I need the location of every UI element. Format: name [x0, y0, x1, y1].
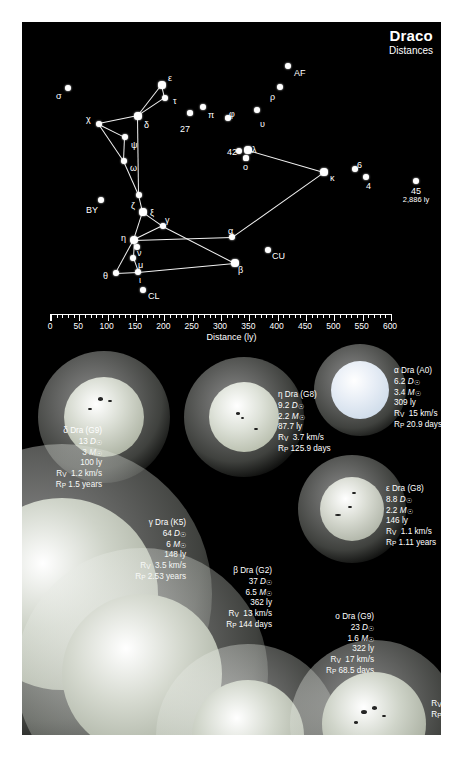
star-point	[98, 197, 104, 203]
scale-minor-tick	[238, 315, 239, 318]
scale-tick-label: 400	[270, 321, 284, 331]
page-subtitle: Distances	[389, 45, 433, 56]
star-label: δ	[144, 121, 149, 130]
star-diameter: 6.2 D☉	[394, 377, 441, 388]
map-title-group: Draco Distances	[389, 27, 433, 56]
star-point	[243, 155, 248, 160]
scale-minor-tick	[374, 315, 375, 318]
star-point	[134, 112, 141, 119]
scale-minor-tick	[142, 315, 143, 318]
star-point	[187, 110, 193, 116]
scale-minor-tick	[210, 315, 211, 318]
star-data-alpha: α Dra (A0)6.2 D☉3.4 M☉309 lyRV 15 km/sRP…	[394, 366, 441, 431]
star-rotation-period: RP 20.9 days	[394, 420, 441, 431]
star-rotation-period: RP 244 days	[431, 710, 441, 721]
star-diameter: 64 D☉	[135, 529, 186, 540]
star-point	[139, 208, 146, 215]
star-mass: 2.2 M☉	[386, 506, 436, 517]
starspot	[354, 721, 359, 724]
star-label: 42	[227, 148, 237, 157]
star-mass: 3.4 M☉	[394, 388, 441, 399]
star-name: β Dra (G2)	[226, 566, 272, 577]
starspot	[254, 428, 258, 430]
page-title: Draco	[389, 27, 433, 44]
scale-minor-tick	[261, 315, 262, 318]
star-point	[200, 104, 206, 110]
star-name: ο Dra (G9)	[326, 612, 374, 623]
scale-tick-label: 300	[213, 321, 227, 331]
scale-minor-tick	[170, 315, 171, 318]
star-size-comparison: α Dra (A0)6.2 D☉3.4 M☉309 lyRV 15 km/sRP…	[22, 344, 441, 735]
starspot	[236, 412, 241, 415]
scale-tick-label: 450	[298, 321, 312, 331]
scale-tick-label: 550	[355, 321, 369, 331]
scale-minor-tick	[215, 315, 216, 318]
star-mass: 2.2 M☉	[278, 412, 331, 423]
star-label: π	[208, 111, 214, 120]
star-point	[162, 95, 168, 101]
star-sphere-eta	[209, 382, 279, 452]
star-point	[65, 85, 71, 91]
star-point	[158, 81, 165, 88]
star-point	[130, 236, 138, 244]
star-diameter: 37 D☉	[226, 577, 272, 588]
star-label: ζ	[131, 202, 135, 211]
far-star-distance: 2,886 ly	[386, 196, 446, 204]
scale-minor-tick	[204, 315, 205, 318]
star-diameter: 13.5 D☉	[431, 667, 441, 678]
scale-minor-tick	[96, 315, 97, 318]
star-label: θ	[103, 272, 108, 281]
star-point	[121, 158, 127, 164]
scale-minor-tick	[153, 315, 154, 318]
star-rotation-period: RP 144 days	[226, 620, 272, 631]
star-label: λ	[252, 146, 257, 155]
starspot	[335, 514, 341, 516]
star-point-45	[413, 178, 420, 185]
scale-minor-tick	[198, 315, 199, 318]
scale-tick-label: 250	[185, 321, 199, 331]
star-chart-page: Draco Distances σετχδ27πφυρAFψω42λοκ64BY…	[0, 0, 463, 757]
star-point	[140, 287, 146, 293]
scale-minor-tick	[74, 315, 75, 318]
starspot	[108, 400, 112, 403]
scale-minor-tick	[289, 315, 290, 318]
star-label: φ	[229, 110, 235, 119]
scale-minor-tick	[272, 315, 273, 318]
scale-minor-tick	[323, 315, 324, 318]
star-distance: 146 ly	[386, 516, 436, 527]
scale-tick-label: 350	[241, 321, 255, 331]
scale-minor-tick	[317, 315, 318, 318]
star-label: 4	[366, 182, 371, 191]
scale-minor-tick	[385, 315, 386, 318]
star-diameter: 8.8 D☉	[386, 495, 436, 506]
star-point	[136, 192, 143, 199]
constellation-line	[137, 97, 165, 116]
constellation-line	[99, 115, 138, 124]
scale-minor-tick	[312, 315, 313, 318]
scale-minor-tick	[176, 315, 177, 318]
constellation-map: Draco Distances σετχδ27πφυρAFψω42λοκ64BY…	[22, 22, 441, 300]
star-distance: 103 ly	[431, 688, 441, 699]
starspot	[98, 397, 103, 400]
star-name: δ Dra (G9)	[56, 426, 102, 437]
constellation-line	[232, 172, 325, 238]
scale-minor-tick	[159, 315, 160, 318]
star-point	[244, 146, 251, 153]
distance-scale: 050100150200250300350400450500550600 Dis…	[22, 300, 441, 344]
star-rotational-velocity: RV 3.7 km/s	[278, 433, 331, 444]
scale-tick-label: 500	[326, 321, 340, 331]
star-label: β	[238, 266, 243, 275]
star-point	[130, 255, 136, 261]
scale-tick-label: 600	[383, 321, 397, 331]
starspot	[241, 417, 244, 419]
scale-minor-tick	[346, 315, 347, 318]
scale-minor-tick	[57, 315, 58, 318]
star-name: ι Dra (K2)	[431, 656, 441, 667]
scale-minor-tick	[283, 315, 284, 318]
star-sphere-epsilon	[320, 477, 384, 541]
star-label: ω	[130, 164, 137, 173]
starspot	[88, 408, 91, 410]
scale-minor-tick	[340, 315, 341, 318]
star-data-epsilon: ε Dra (G8)8.8 D☉2.2 M☉146 lyRV 1.1 km/sR…	[386, 484, 436, 549]
star-rotation-period: RP 125.9 days	[278, 444, 331, 455]
